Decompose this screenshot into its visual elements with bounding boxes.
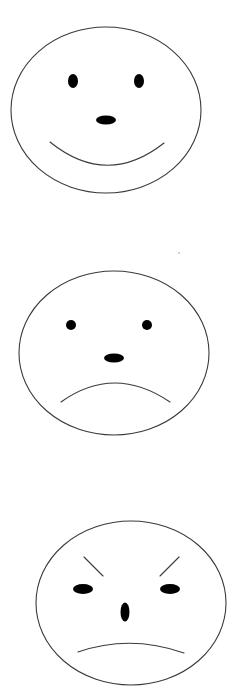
faces-illustration <box>0 0 246 696</box>
right-eye-icon <box>134 74 144 88</box>
nose-icon <box>96 116 116 125</box>
stray-dot <box>178 252 180 254</box>
left-eye-icon <box>73 584 93 594</box>
face-happy <box>11 27 201 193</box>
left-eye-icon <box>68 74 78 88</box>
nose-icon <box>104 354 124 363</box>
right-eye-icon <box>142 320 152 330</box>
nose-icon <box>121 603 130 622</box>
face-sad <box>19 271 209 435</box>
right-eye-icon <box>160 584 180 594</box>
face-angry <box>36 521 226 685</box>
face-outline <box>19 271 209 435</box>
left-eye-icon <box>66 320 76 330</box>
face-outline <box>11 27 201 193</box>
face-outline <box>36 521 226 685</box>
